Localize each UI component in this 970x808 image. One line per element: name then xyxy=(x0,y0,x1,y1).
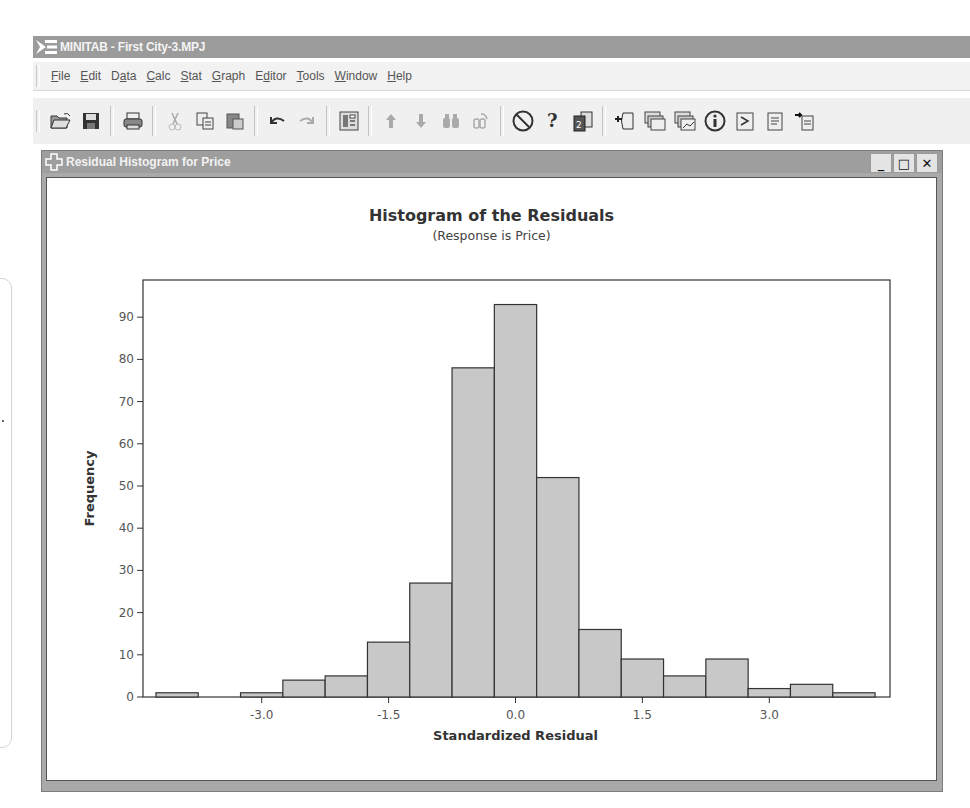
graph-area[interactable]: Histogram of the Residuals (Response is … xyxy=(46,177,937,781)
find-icon xyxy=(441,112,461,130)
next-button[interactable] xyxy=(407,107,435,135)
stat-guide-button[interactable]: 2 xyxy=(569,107,597,135)
toolbar-separator xyxy=(326,106,330,136)
y-tick-label: 40 xyxy=(119,521,134,535)
cut-icon xyxy=(166,111,184,131)
toolbar: ? 2 xyxy=(33,98,970,144)
histogram-bar[interactable] xyxy=(579,629,621,697)
svg-text:2: 2 xyxy=(576,120,582,130)
paste-icon xyxy=(225,111,245,131)
x-tick-label: 3.0 xyxy=(760,708,779,722)
histogram-bar[interactable] xyxy=(790,684,832,697)
y-tick-label: 90 xyxy=(119,310,134,324)
x-tick-label: 0.0 xyxy=(506,708,525,722)
graph-folder-button[interactable] xyxy=(671,107,699,135)
minimize-button[interactable]: _ xyxy=(870,153,892,173)
x-tick-label: -3.0 xyxy=(250,708,273,722)
toolbar-separator xyxy=(602,106,606,136)
histogram-bar[interactable] xyxy=(706,659,748,697)
close-button[interactable]: ✕ xyxy=(916,153,938,173)
menu-data[interactable]: Data xyxy=(106,66,141,86)
toolbar-separator xyxy=(152,106,156,136)
print-icon xyxy=(122,111,144,131)
open-project-button[interactable] xyxy=(47,107,75,135)
menu-tools[interactable]: Tools xyxy=(292,66,330,86)
y-tick-label: 70 xyxy=(119,395,134,409)
graph-window-icon xyxy=(45,153,63,171)
child-window-titlebar[interactable]: Residual Histogram for Price _ □ ✕ xyxy=(42,151,942,173)
toolbar-separator xyxy=(254,106,258,136)
previous-button[interactable] xyxy=(377,107,405,135)
histogram-bar[interactable] xyxy=(537,478,579,697)
menu-grip[interactable] xyxy=(36,65,40,87)
histogram-bar[interactable] xyxy=(494,305,536,697)
x-tick-label: -1.5 xyxy=(377,708,400,722)
histogram-bar[interactable] xyxy=(241,693,283,697)
toolbar-separator xyxy=(368,106,372,136)
histogram-bar[interactable] xyxy=(367,642,409,697)
histogram-bar[interactable] xyxy=(833,693,875,697)
cut-button[interactable] xyxy=(161,107,189,135)
replace-button[interactable] xyxy=(467,107,495,135)
y-tick-label: 30 xyxy=(119,563,134,577)
page-background-dot xyxy=(2,420,4,422)
report-pad-button[interactable] xyxy=(761,107,789,135)
minitab-application-window: MINITAB - First City-3.MPJ FileEditDataC… xyxy=(33,36,970,790)
redo-button[interactable] xyxy=(293,107,321,135)
close-icon: ✕ xyxy=(922,156,933,171)
histogram-bar[interactable] xyxy=(156,693,198,697)
maximize-button[interactable]: □ xyxy=(893,153,915,173)
edit-last-dialog-icon xyxy=(338,110,360,132)
command-line-button[interactable] xyxy=(731,107,759,135)
stat-guide-icon: 2 xyxy=(572,110,594,132)
histogram-bar[interactable] xyxy=(621,659,663,697)
histogram-bar[interactable] xyxy=(452,368,494,697)
append-report-icon xyxy=(794,110,816,132)
histogram-plot: 0102030405060708090-3.0-1.50.01.53.0Stan… xyxy=(47,178,936,780)
minimize-icon: _ xyxy=(878,156,885,171)
menu-editor[interactable]: Editor xyxy=(250,66,291,86)
toolbar-grip[interactable] xyxy=(36,110,40,132)
save-icon xyxy=(81,111,101,131)
menu-bar: FileEditDataCalcStatGraphEditorToolsWind… xyxy=(33,62,970,91)
graphs-folder-button[interactable] xyxy=(641,107,669,135)
y-tick-label: 80 xyxy=(119,352,134,366)
session-folder-icon xyxy=(613,110,637,132)
cancel-icon xyxy=(511,109,535,133)
cancel-button[interactable] xyxy=(509,107,537,135)
histogram-bar[interactable] xyxy=(283,680,325,697)
find-button[interactable] xyxy=(437,107,465,135)
histogram-bar[interactable] xyxy=(410,583,452,697)
histogram-bar[interactable] xyxy=(748,689,790,697)
copy-button[interactable] xyxy=(191,107,219,135)
save-project-button[interactable] xyxy=(77,107,105,135)
append-to-report-button[interactable] xyxy=(791,107,819,135)
page-background-frame xyxy=(0,278,12,748)
y-axis-label: Frequency xyxy=(82,450,97,527)
menu-stat[interactable]: Stat xyxy=(175,66,206,86)
maximize-icon: □ xyxy=(898,156,910,171)
histogram-bar[interactable] xyxy=(664,676,706,697)
svg-text:?: ? xyxy=(547,110,558,131)
redo-icon xyxy=(297,113,317,129)
edit-last-dialog-button[interactable] xyxy=(335,107,363,135)
report-pad-icon xyxy=(765,110,785,132)
menu-calc[interactable]: Calc xyxy=(141,66,175,86)
menu-file[interactable]: File xyxy=(46,66,75,86)
app-titlebar[interactable]: MINITAB - First City-3.MPJ xyxy=(33,36,970,58)
menu-window[interactable]: Window xyxy=(330,66,383,86)
child-window-title: Residual Histogram for Price xyxy=(66,155,231,169)
command-line-icon xyxy=(735,110,755,132)
undo-button[interactable] xyxy=(263,107,291,135)
session-folder-button[interactable] xyxy=(611,107,639,135)
menu-help[interactable]: Help xyxy=(382,66,417,86)
x-tick-label: 1.5 xyxy=(633,708,652,722)
print-button[interactable] xyxy=(119,107,147,135)
help-button[interactable]: ? xyxy=(539,107,567,135)
project-manager-info-button[interactable] xyxy=(701,107,729,135)
graphs-folder-icon xyxy=(643,110,667,132)
menu-edit[interactable]: Edit xyxy=(75,66,106,86)
menu-graph[interactable]: Graph xyxy=(207,66,250,86)
paste-button[interactable] xyxy=(221,107,249,135)
histogram-bar[interactable] xyxy=(325,676,367,697)
